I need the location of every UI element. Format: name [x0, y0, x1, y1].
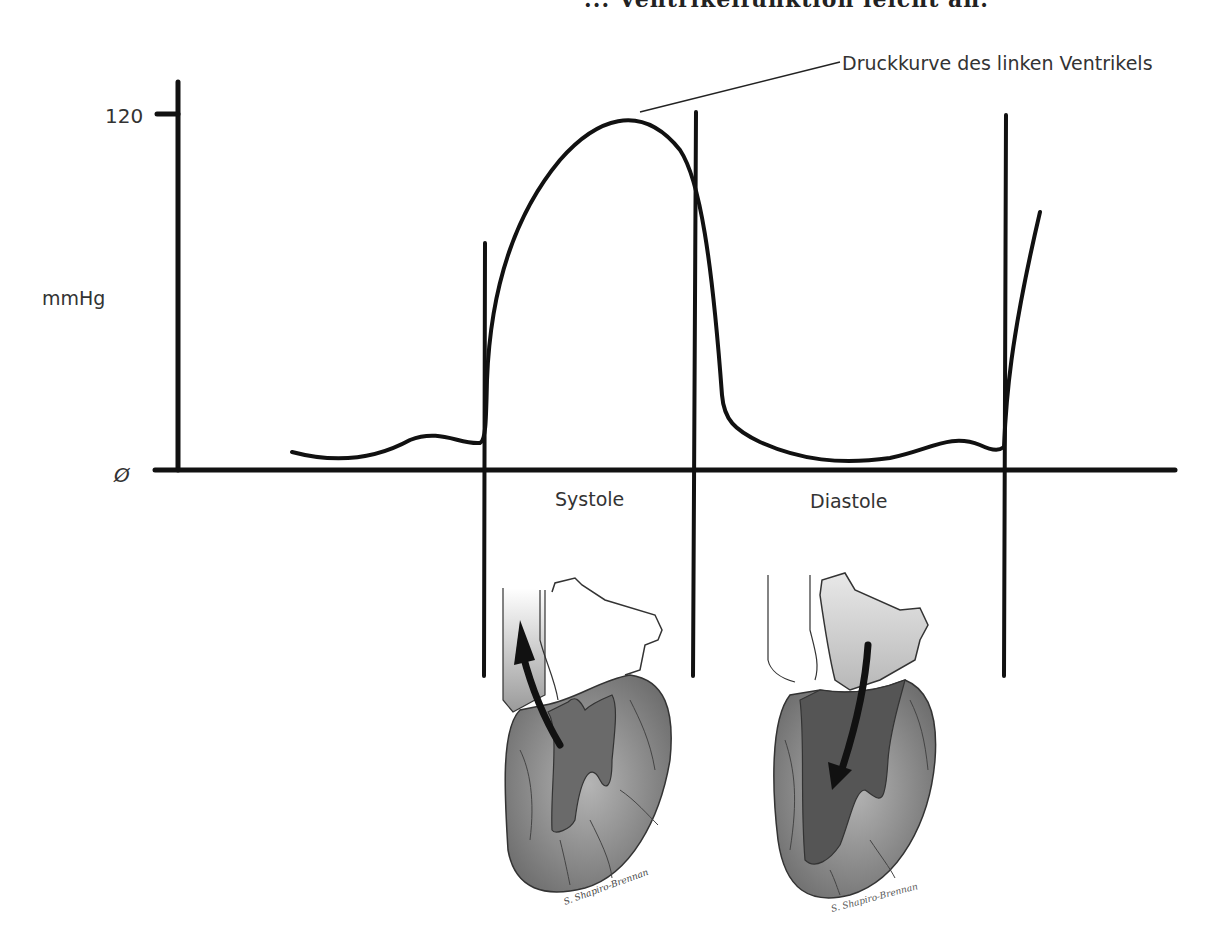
axes [155, 82, 1175, 470]
phase-line-systole-start [484, 243, 485, 676]
y-tick-label-120: 120 [105, 104, 143, 128]
phase-label-diastole: Diastole [810, 490, 888, 512]
annotation-label: Druckkurve des linken Ventrikels [842, 52, 1153, 74]
y-tick-label-zero: Ø [113, 463, 131, 487]
phase-label-systole: Systole [555, 488, 624, 510]
y-axis-label: mmHg [42, 287, 105, 309]
annotation-leader [640, 62, 840, 112]
heart-diastole-illustration: S. Shapiro-Brennan [768, 573, 936, 914]
pressure-diagram: 120 Ø mmHg Druckkurve des linken Ventrik… [0, 0, 1213, 940]
ventricle-pressure-curve [292, 120, 1040, 461]
heart-systole-illustration: S. Shapiro-Brennan [503, 578, 671, 907]
